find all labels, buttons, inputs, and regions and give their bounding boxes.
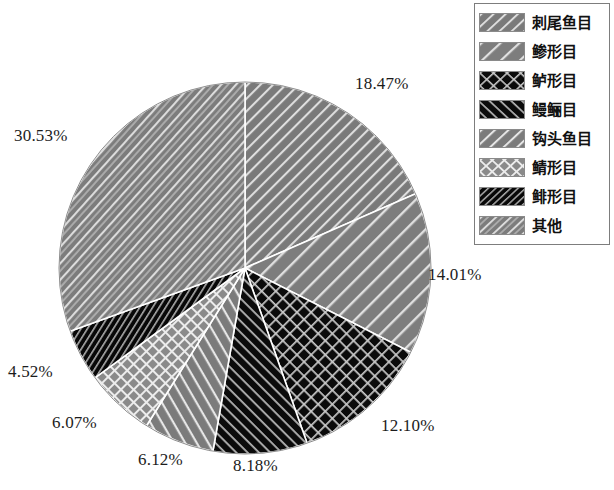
- legend-item-label: 鲭形目: [532, 160, 577, 175]
- pie-value-label: 18.47%: [355, 74, 409, 94]
- legend-item-label: 鲈形目: [532, 73, 577, 88]
- swatch-goutouyumu: [479, 129, 525, 148]
- legend-item[interactable]: 其他: [479, 211, 609, 240]
- pie-value-label: 12.10%: [381, 416, 435, 436]
- legend-item[interactable]: 鳗鲡目: [479, 95, 609, 124]
- pie-slices-group: [59, 82, 431, 454]
- swatch-feixingmu: [479, 187, 525, 206]
- pie-value-label: 6.12%: [138, 450, 183, 470]
- legend-item[interactable]: 鲱形目: [479, 182, 609, 211]
- legend-item[interactable]: 鲭形目: [479, 153, 609, 182]
- pie-value-label: 8.18%: [233, 456, 278, 476]
- legend-item-label: 钩头鱼目: [532, 131, 592, 146]
- pie-value-label: 30.53%: [14, 126, 68, 146]
- legend-item[interactable]: 刺尾鱼目: [479, 8, 609, 37]
- swatch-qingxingmu: [479, 158, 525, 177]
- pie-value-label: 4.52%: [8, 362, 53, 382]
- legend-item-label: 鲹形目: [532, 44, 577, 59]
- chart-legend: 刺尾鱼目鲹形目鲈形目鳗鲡目钩头鱼目鲭形目鲱形目其他: [474, 3, 610, 245]
- pie-chart-figure: 18.47%14.01%12.10%8.18%6.12%6.07%4.52%30…: [0, 0, 614, 490]
- legend-item-label: 鳗鲡目: [532, 102, 577, 117]
- pie-value-label: 6.07%: [52, 413, 97, 433]
- swatch-ciweiyumu: [479, 13, 525, 32]
- swatch-qita: [479, 216, 525, 235]
- pie-value-label: 14.01%: [428, 265, 482, 285]
- legend-item-label: 鲱形目: [532, 189, 577, 204]
- legend-item[interactable]: 鲹形目: [479, 37, 609, 66]
- legend-item-label: 其他: [532, 218, 562, 233]
- swatch-manlimu: [479, 100, 525, 119]
- legend-item[interactable]: 钩头鱼目: [479, 124, 609, 153]
- legend-item-label: 刺尾鱼目: [532, 15, 592, 30]
- legend-item[interactable]: 鲈形目: [479, 66, 609, 95]
- swatch-shenxingmu: [479, 42, 525, 61]
- swatch-luxingmu: [479, 71, 525, 90]
